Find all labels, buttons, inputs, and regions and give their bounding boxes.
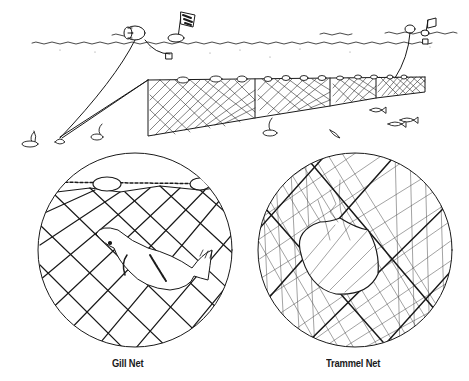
illustration (0, 0, 469, 381)
barrel-float-icon (124, 26, 145, 40)
anchor-weights (22, 118, 277, 147)
gill-net-label: Gill Net (112, 357, 143, 369)
trammel-net-label: Trammel Net (326, 357, 380, 369)
trammel-net-inset (258, 150, 452, 350)
gill-net-inset (38, 153, 240, 355)
anchor-line (60, 40, 148, 138)
water-surface (32, 32, 457, 44)
flag-buoy-icon (145, 12, 195, 59)
flag-buoy-right-icon (395, 18, 436, 78)
water-dots (59, 46, 430, 57)
net-mesh (150, 77, 425, 135)
fish-school-icon (330, 107, 418, 138)
